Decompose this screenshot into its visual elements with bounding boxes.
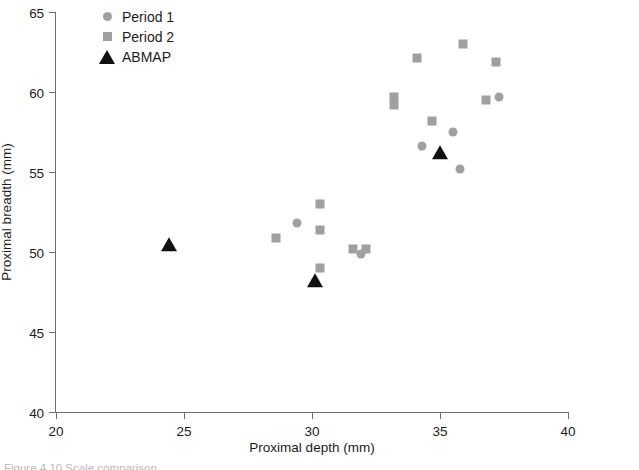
data-point <box>428 116 437 125</box>
y-tick-label: 40 <box>29 405 44 420</box>
data-point <box>307 274 323 288</box>
x-tick: 30 <box>312 412 313 419</box>
data-point <box>459 40 468 49</box>
data-point <box>389 100 398 109</box>
x-tick: 20 <box>56 412 57 419</box>
data-point <box>494 92 503 101</box>
data-point <box>272 233 281 242</box>
x-tick-label: 35 <box>433 424 448 439</box>
x-tick-label: 20 <box>49 424 64 439</box>
y-tick-label: 45 <box>29 325 44 340</box>
data-point <box>448 128 457 137</box>
x-tick-label: 40 <box>561 424 576 439</box>
figure-caption: Figure 4.10 Scale comparison <box>4 462 157 470</box>
x-tick-label: 30 <box>305 424 320 439</box>
data-point <box>161 237 177 251</box>
data-point <box>412 54 421 63</box>
data-point <box>482 96 491 105</box>
data-point <box>361 244 370 253</box>
y-tick-label: 65 <box>29 5 44 20</box>
y-tick: 50 <box>49 252 56 253</box>
data-point <box>418 142 427 151</box>
data-point <box>292 219 301 228</box>
x-tick-label: 25 <box>177 424 192 439</box>
x-tick: 35 <box>440 412 441 419</box>
data-point <box>315 200 324 209</box>
data-point <box>315 264 324 273</box>
y-tick: 60 <box>49 92 56 93</box>
y-axis-line <box>55 12 56 412</box>
data-point <box>315 225 324 234</box>
y-tick: 40 <box>49 412 56 413</box>
y-axis-title: Proximal breadth (mm) <box>0 143 14 280</box>
y-tick: 65 <box>49 12 56 13</box>
y-tick: 45 <box>49 332 56 333</box>
x-tick: 40 <box>568 412 569 419</box>
y-tick-label: 60 <box>29 85 44 100</box>
data-point <box>432 146 448 160</box>
data-point <box>348 244 357 253</box>
x-tick: 25 <box>184 412 185 419</box>
data-point <box>456 164 465 173</box>
data-point <box>492 57 501 66</box>
plot-area: 404550556065 2025303540 <box>56 12 568 412</box>
y-tick-label: 55 <box>29 165 44 180</box>
y-tick: 55 <box>49 172 56 173</box>
scatter-plot-figure: Period 1Period 2ABMAP Proximal breadth (… <box>0 0 639 470</box>
x-axis-title: Proximal depth (mm) <box>249 440 374 455</box>
y-tick-label: 50 <box>29 245 44 260</box>
